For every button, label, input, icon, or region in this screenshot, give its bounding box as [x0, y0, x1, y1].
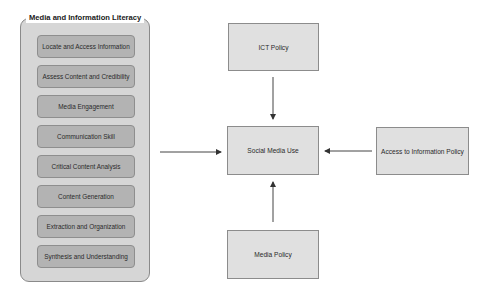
arrows-layer [0, 0, 490, 295]
